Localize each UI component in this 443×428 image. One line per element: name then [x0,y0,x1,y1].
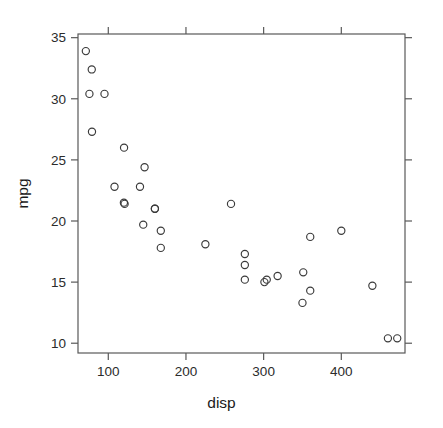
y-tick-label: 10 [51,336,66,351]
y-tick-label: 15 [51,275,66,290]
data-point [307,233,314,240]
y-tick-label: 30 [51,92,66,107]
data-point [141,164,148,171]
plot-frame-box [78,34,405,353]
y-tick-label: 25 [51,153,66,168]
data-point [307,287,314,294]
data-point [136,183,143,190]
y-axis-title: mpg [14,178,31,208]
data-point [338,227,345,234]
x-tick-label: 400 [330,364,353,379]
data-point [300,269,307,276]
data-point [111,183,118,190]
x-tick-label: 200 [175,364,198,379]
y-tick-label: 20 [51,214,66,229]
scatter-points-group [82,48,401,342]
x-tick-label: 100 [97,364,120,379]
y-axis-ticks-left [71,38,78,344]
x-axis-title: disp [207,394,235,411]
x-axis-tick-labels: 100200300400 [97,364,353,379]
plot-canvas: 101520253035 100200300400 disp mpg [0,0,443,428]
data-point [369,282,376,289]
data-point [86,90,93,97]
data-point [157,227,164,234]
data-point [82,48,89,55]
scatter-plot-figure: 101520253035 100200300400 disp mpg [0,0,443,428]
data-point [120,144,127,151]
data-point [157,244,164,251]
x-tick-label: 300 [252,364,275,379]
x-axis-ticks-top [108,27,341,34]
data-point [274,272,281,279]
data-point [88,66,95,73]
data-point [394,335,401,342]
data-point [101,90,108,97]
y-tick-label: 35 [51,30,66,45]
x-axis-ticks-bottom [108,353,341,360]
data-point [140,221,147,228]
data-point [384,335,391,342]
data-point [151,205,158,212]
data-point [241,250,248,257]
data-point [241,276,248,283]
y-axis-ticks-right [405,38,412,344]
data-point [299,299,306,306]
y-axis-tick-labels: 101520253035 [51,30,66,351]
data-point [227,200,234,207]
data-point [241,261,248,268]
data-point [88,128,95,135]
data-point [202,241,209,248]
